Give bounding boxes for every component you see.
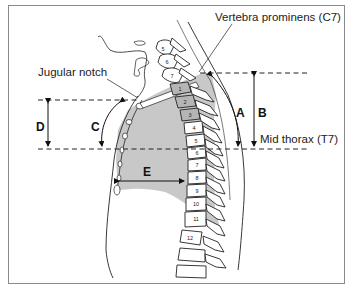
measurement-label-B: B [258, 107, 267, 119]
label-mid-thorax: Mid thorax (T7) [260, 134, 338, 146]
svg-text:6: 6 [165, 59, 168, 65]
svg-text:10: 10 [193, 201, 199, 207]
svg-text:1: 1 [178, 86, 181, 92]
jugular-notch-leader [107, 79, 138, 98]
label-vertebra-prominens: Vertebra prominens (C7) [215, 12, 341, 24]
arrow-C [102, 102, 120, 146]
svg-text:11: 11 [193, 216, 199, 222]
svg-text:2: 2 [183, 99, 186, 105]
svg-text:3: 3 [188, 112, 191, 118]
mandible-fragment [134, 41, 145, 45]
svg-text:5: 5 [161, 46, 164, 52]
measurement-label-C: C [91, 121, 100, 133]
label-jugular-notch: Jugular notch [38, 67, 107, 79]
svg-text:6: 6 [195, 150, 198, 156]
svg-text:12: 12 [187, 235, 193, 241]
svg-text:7: 7 [170, 73, 173, 79]
measurement-label-A: A [236, 107, 245, 119]
svg-text:5: 5 [194, 138, 197, 144]
measurement-label-D: D [36, 121, 45, 133]
svg-text:9: 9 [195, 188, 198, 194]
svg-text:4: 4 [192, 125, 195, 131]
svg-text:8: 8 [195, 175, 198, 181]
svg-text:7: 7 [195, 162, 198, 168]
c7-leader [199, 24, 232, 72]
measurement-label-E: E [143, 166, 151, 178]
